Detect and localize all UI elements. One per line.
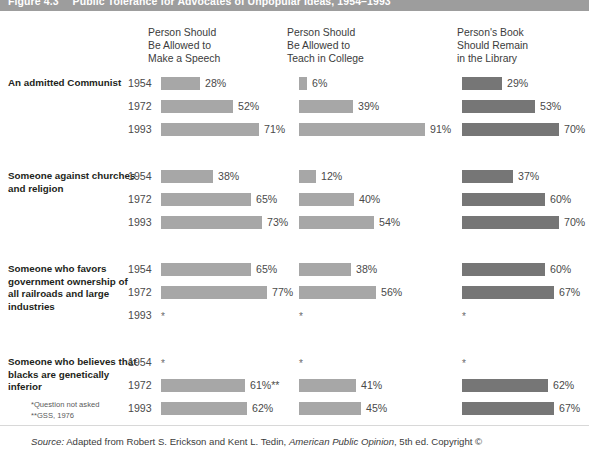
chart-row-year: 1954: [128, 355, 158, 370]
not-asked-marker: *: [161, 310, 165, 323]
chart-bar-value: 38%: [218, 169, 239, 184]
chart-bar-value: 53%: [540, 99, 561, 114]
chart-bar-value: 40%: [359, 192, 380, 207]
figure-title: Public Tolerance for Advocates of Unpopu…: [73, 0, 391, 7]
chart-bar-value: 70%: [564, 122, 585, 137]
not-asked-marker: *: [462, 357, 466, 370]
column-header-line: Person Should: [287, 27, 364, 40]
chart-bar-value: 62%: [553, 378, 574, 393]
chart-bar-value: 6%: [312, 76, 327, 91]
source-line: Source: Adapted from Robert S. Erickson …: [31, 436, 482, 448]
chart-bar: [462, 379, 548, 392]
column-header-teach: Person Should Be Allowed to Teach in Col…: [287, 27, 364, 65]
chart-bar-value: 71%: [264, 122, 285, 137]
source-divider: [0, 425, 589, 426]
chart-row-year: 1972: [128, 285, 158, 300]
chart-bar: [299, 263, 351, 276]
chart-bar: [462, 123, 559, 136]
chart-row-year: 1972: [128, 378, 158, 393]
chart-bar: [462, 286, 554, 299]
column-header-speech: Person Should Be Allowed to Make a Speec…: [148, 27, 220, 65]
chart-bar: [161, 216, 262, 229]
not-asked-marker: *: [462, 310, 466, 323]
chart-bar-value: 54%: [379, 215, 400, 230]
chart-bar: [299, 123, 425, 136]
chart-bar-value: 28%: [205, 76, 226, 91]
chart-bar: [161, 77, 200, 90]
column-headers: Person Should Be Allowed to Make a Speec…: [0, 27, 589, 73]
chart-bar-value: 67%: [559, 285, 580, 300]
footnotes: *Question not asked **GSS, 1976: [31, 400, 99, 421]
chart-bar: [161, 170, 213, 183]
figure-number: Figure 4.3: [8, 0, 59, 7]
chart-bar-value: 38%: [356, 262, 377, 277]
chart-bar-value: 45%: [366, 401, 387, 416]
footnote-gss: **GSS, 1976: [31, 411, 99, 422]
chart-bar: [299, 286, 376, 299]
chart-bar: [299, 402, 361, 415]
chart-bar-value: 60%: [550, 192, 571, 207]
column-header-line: Teach in College: [287, 53, 364, 66]
source-label: Source:: [31, 436, 64, 447]
chart-row-year: 1972: [128, 192, 158, 207]
chart-bar-value: 56%: [381, 285, 402, 300]
chart-group: An admitted Communist195428%6%29%197252%…: [0, 76, 589, 169]
chart-row: 1993***: [0, 308, 589, 331]
chart-bar: [462, 402, 554, 415]
chart-row: 197265%40%60%: [0, 192, 589, 215]
chart-row: 197277%56%67%: [0, 285, 589, 308]
chart-bar-value: 12%: [321, 169, 342, 184]
chart-row-year: 1954: [128, 262, 158, 277]
chart-group: Someone against churches and religion195…: [0, 169, 589, 262]
figure-title-banner: Figure 4.3Public Tolerance for Advocates…: [0, 0, 589, 11]
source-text-after: , 5th ed. Copyright ©: [394, 436, 482, 447]
chart-bar: [161, 123, 259, 136]
source-text-before: Adapted from Robert S. Erickson and Kent…: [64, 436, 289, 447]
column-header-line: Be Allowed to: [148, 40, 220, 53]
chart-bar: [161, 379, 245, 392]
source-book-title: American Public Opinion: [289, 436, 394, 447]
chart-row-year: 1993: [128, 308, 158, 323]
chart-row: 197261%**41%62%: [0, 378, 589, 401]
chart-row: 197252%39%53%: [0, 99, 589, 122]
chart-bar: [299, 170, 316, 183]
chart-group: Someone who favors government ownership …: [0, 262, 589, 355]
chart-row: 195465%38%60%: [0, 262, 589, 285]
column-header-library: Person's Book Should Remain in the Libra…: [457, 27, 528, 65]
chart-row: 199371%91%70%: [0, 122, 589, 145]
chart-bar-value: 65%: [256, 262, 277, 277]
chart-bar-value: 39%: [358, 99, 379, 114]
not-asked-marker: *: [299, 357, 303, 370]
not-asked-marker: *: [161, 357, 165, 370]
chart-bar: [299, 77, 307, 90]
chart-bar: [462, 170, 513, 183]
column-header-line: in the Library: [457, 53, 528, 66]
chart-row: 199373%54%70%: [0, 215, 589, 238]
chart-bar: [299, 193, 354, 206]
chart-bar-value: 41%: [361, 378, 382, 393]
column-header-line: Person Should: [148, 27, 220, 40]
chart-bar: [462, 216, 559, 229]
chart-bar: [462, 263, 545, 276]
chart-row-year: 1993: [128, 122, 158, 137]
not-asked-marker: *: [299, 310, 303, 323]
chart-row-year: 1993: [128, 401, 158, 416]
chart-bar: [299, 100, 353, 113]
bar-chart: An admitted Communist195428%6%29%197252%…: [0, 76, 589, 424]
chart-bar-value: 65%: [256, 192, 277, 207]
chart-bar: [161, 193, 251, 206]
chart-bar: [161, 100, 233, 113]
column-header-line: Make a Speech: [148, 53, 220, 66]
chart-bar: [161, 263, 251, 276]
chart-bar: [161, 286, 267, 299]
chart-bar: [299, 216, 374, 229]
chart-bar-value: 77%: [272, 285, 293, 300]
chart-bar: [462, 77, 502, 90]
chart-bar: [462, 193, 545, 206]
chart-row-year: 1954: [128, 169, 158, 184]
chart-bar-value: 67%: [559, 401, 580, 416]
chart-bar: [299, 379, 356, 392]
chart-bar: [462, 100, 535, 113]
chart-bar: [161, 402, 247, 415]
chart-bar-value: 70%: [564, 215, 585, 230]
